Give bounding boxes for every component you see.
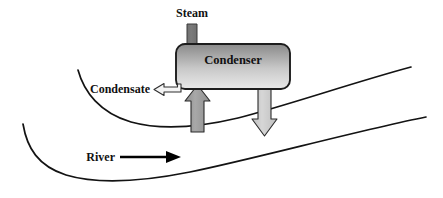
river-flow-arrow — [120, 151, 181, 163]
condenser-river-diagram: Steam Condenser Condensate River — [0, 0, 443, 198]
condenser-label: Condenser — [204, 53, 262, 67]
river-label: River — [86, 150, 115, 164]
condensate-outlet-arrow — [154, 84, 181, 96]
cooling-water-outlet-arrow — [252, 84, 277, 136]
steam-label: Steam — [176, 6, 208, 20]
diagram-canvas: Steam Condenser Condensate River — [0, 0, 443, 198]
condensate-label: Condensate — [90, 82, 151, 96]
river-bank-lower — [23, 117, 426, 181]
